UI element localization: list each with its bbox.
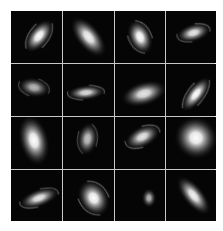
elliptical-galaxy-image (63, 11, 114, 63)
elliptical-galaxy-image (166, 170, 216, 221)
elliptical-galaxy-image (11, 117, 62, 169)
galaxy-cell (11, 170, 62, 221)
compact-galaxy-image (115, 170, 165, 221)
galaxy-cell (166, 11, 216, 63)
galaxy-cell (166, 117, 216, 169)
galaxy-cell (11, 11, 62, 63)
spiral-galaxy-image (11, 64, 62, 116)
spiral-galaxy-image (63, 64, 114, 116)
galaxy-cell (63, 117, 114, 169)
galaxy-cell (63, 64, 114, 116)
elliptical-galaxy-image (166, 117, 216, 169)
spiral-galaxy-image (63, 170, 114, 221)
galaxy-cell (166, 170, 216, 221)
galaxy-cell (115, 64, 165, 116)
galaxy-image-grid (11, 11, 215, 221)
spiral-galaxy-image (11, 170, 62, 221)
spiral-galaxy-image (63, 117, 114, 169)
galaxy-cell (11, 64, 62, 116)
galaxy-cell (11, 117, 62, 169)
spiral-galaxy-image (115, 117, 165, 169)
spiral-galaxy-image (11, 11, 62, 63)
galaxy-cell (63, 170, 114, 221)
spiral-galaxy-image (115, 11, 165, 63)
galaxy-cell (166, 64, 216, 116)
galaxy-cell (115, 11, 165, 63)
galaxy-cell (63, 11, 114, 63)
galaxy-cell (115, 117, 165, 169)
galaxy-cell (115, 170, 165, 221)
spiral-galaxy-image (166, 11, 216, 63)
spiral-galaxy-image (166, 64, 216, 116)
elliptical-galaxy-image (115, 64, 165, 116)
